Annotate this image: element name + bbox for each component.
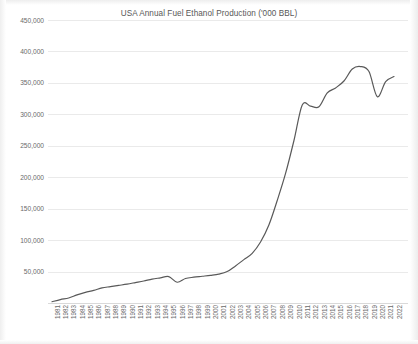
x-tick-label: 2011: [305, 305, 312, 319]
x-tick-label: 1983: [71, 305, 78, 319]
x-tick-label: 2021: [388, 305, 395, 319]
x-tick-label: 2018: [363, 305, 370, 319]
x-tick-label: 1986: [96, 305, 103, 319]
chart-container: USA Annual Fuel Ethanol Production ('000…: [0, 0, 418, 344]
x-axis: 1981198219831984198519861987198819891990…: [48, 305, 408, 344]
x-tick-label: 2006: [263, 305, 270, 319]
x-tick-label: 2013: [322, 305, 329, 319]
y-tick-label: 50,000: [24, 268, 44, 275]
x-tick-label: 1981: [55, 305, 62, 319]
plot-area: [48, 20, 408, 304]
x-tick-label: 2008: [280, 305, 287, 319]
page-edge-right: [410, 0, 418, 344]
x-tick-label: 2000: [213, 305, 220, 319]
page-edge-top: [0, 0, 418, 5]
series-line: [52, 66, 394, 301]
x-tick-label: 1998: [196, 305, 203, 319]
x-tick-label: 2002: [230, 305, 237, 319]
x-tick-label: 2020: [380, 305, 387, 319]
x-tick-label: 2009: [288, 305, 295, 319]
line-series: [48, 20, 408, 304]
x-tick-label: 1996: [180, 305, 187, 319]
x-tick-label: 1987: [105, 305, 112, 319]
x-tick-label: 1989: [121, 305, 128, 319]
x-tick-label: 2019: [372, 305, 379, 319]
x-tick-label: 1999: [205, 305, 212, 319]
x-tick-label: 1988: [113, 305, 120, 319]
x-tick-label: 1985: [88, 305, 95, 319]
chart-title: USA Annual Fuel Ethanol Production ('000…: [0, 9, 418, 18]
y-tick-label: 400,000: [20, 48, 44, 55]
x-tick-label: 1984: [80, 305, 87, 319]
x-tick-label: 2007: [271, 305, 278, 319]
y-tick-label: 150,000: [20, 205, 44, 212]
x-tick-label: 1993: [155, 305, 162, 319]
y-tick-label: 100,000: [20, 237, 44, 244]
x-tick-label: 1994: [163, 305, 170, 319]
x-tick-label: 2005: [255, 305, 262, 319]
x-tick-label: 1991: [138, 305, 145, 319]
y-axis: 50,000100,000150,000200,000250,000300,00…: [0, 20, 44, 304]
x-tick-label: 2022: [397, 305, 404, 319]
y-tick-label: 250,000: [20, 142, 44, 149]
x-tick-label: 2015: [338, 305, 345, 319]
x-tick-label: 2016: [347, 305, 354, 319]
y-tick-label: 300,000: [20, 111, 44, 118]
y-tick-label: 450,000: [20, 17, 44, 24]
x-tick-label: 2012: [313, 305, 320, 319]
x-tick-label: 2010: [297, 305, 304, 319]
y-tick-label: 200,000: [20, 174, 44, 181]
x-tick-label: 1990: [130, 305, 137, 319]
x-tick-label: 1982: [63, 305, 70, 319]
x-tick-label: 1992: [146, 305, 153, 319]
x-tick-label: 2004: [246, 305, 253, 319]
x-tick-label: 2017: [355, 305, 362, 319]
x-tick-label: 2001: [221, 305, 228, 319]
y-tick-label: 350,000: [20, 79, 44, 86]
x-tick-label: 2003: [238, 305, 245, 319]
x-tick-label: 1995: [171, 305, 178, 319]
x-tick-label: 2014: [330, 305, 337, 319]
x-tick-label: 1997: [188, 305, 195, 319]
